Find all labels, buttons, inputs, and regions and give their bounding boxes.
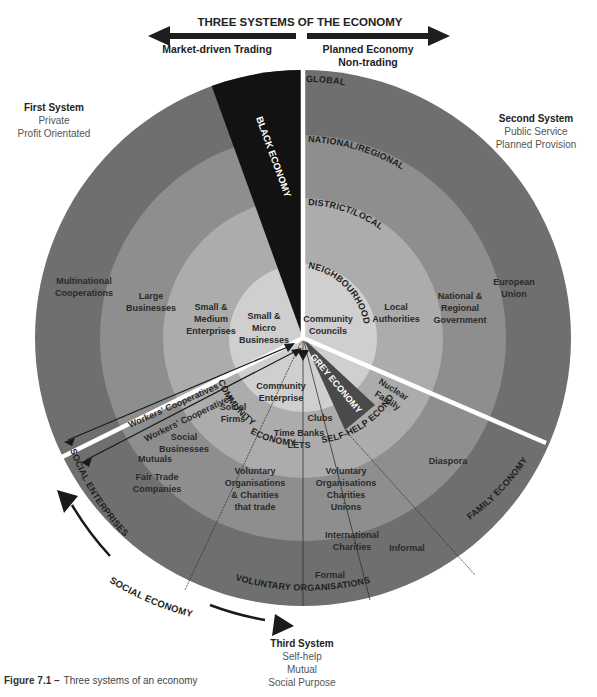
svg-text:Firms: Firms	[221, 414, 246, 424]
svg-text:Cooperations: Cooperations	[55, 288, 113, 298]
svg-text:Large: Large	[139, 291, 164, 301]
svg-text:Organisations: Organisations	[225, 478, 286, 488]
svg-text:Planned Provision: Planned Provision	[496, 139, 577, 150]
svg-text:Small &: Small &	[194, 302, 228, 312]
right-arrowhead-icon	[428, 26, 450, 46]
svg-text:Authorities: Authorities	[372, 314, 420, 324]
second-system-label: Second System Public Service Planned Pro…	[496, 113, 577, 150]
svg-text:Social: Social	[171, 432, 198, 442]
arrowhead-right-icon	[272, 614, 294, 636]
svg-text:Public Service: Public Service	[504, 126, 568, 137]
svg-text:Enterprises: Enterprises	[186, 326, 236, 336]
svg-text:Charities: Charities	[327, 490, 366, 500]
svg-text:Second System: Second System	[499, 113, 574, 124]
svg-text:& Charities: & Charities	[231, 490, 279, 500]
third-system-label: Third System Self-help Mutual Social Pur…	[268, 638, 336, 688]
svg-text:that trade: that trade	[234, 502, 275, 512]
svg-text:Diaspora: Diaspora	[429, 456, 469, 466]
svg-text:First System: First System	[24, 102, 84, 113]
svg-text:Businesses: Businesses	[159, 444, 209, 454]
svg-text:Union: Union	[501, 289, 527, 299]
svg-text:Mutual: Mutual	[287, 664, 317, 675]
svg-text:Unions: Unions	[331, 502, 362, 512]
svg-text:Private: Private	[38, 115, 70, 126]
svg-text:National &: National &	[438, 291, 483, 301]
svg-text:Businesses: Businesses	[239, 335, 289, 345]
svg-text:Businesses: Businesses	[126, 303, 176, 313]
svg-text:Informal: Informal	[389, 543, 425, 553]
svg-text:Self-help: Self-help	[282, 651, 322, 662]
svg-text:Enterprise: Enterprise	[259, 393, 304, 403]
header-title: THREE SYSTEMS OF THE ECONOMY	[197, 16, 402, 28]
header-right-label-1: Planned Economy	[322, 43, 413, 55]
svg-text:Companies: Companies	[133, 484, 182, 494]
svg-text:Time Banks: Time Banks	[274, 428, 324, 438]
header-right-label-2: Non-trading	[338, 56, 398, 68]
figure-caption: Figure 7.1 –Three systems of an economy	[4, 675, 198, 686]
svg-text:LETS: LETS	[287, 440, 310, 450]
svg-text:Micro: Micro	[252, 323, 277, 333]
svg-text:Regional: Regional	[441, 303, 479, 313]
header-left-label: Market-driven Trading	[162, 43, 272, 55]
svg-text:Social Purpose: Social Purpose	[268, 677, 336, 688]
svg-text:Mutuals: Mutuals	[138, 454, 172, 464]
svg-text:Voluntary: Voluntary	[235, 466, 276, 476]
svg-text:Fair Trade: Fair Trade	[135, 472, 178, 482]
svg-text:Councils: Councils	[309, 326, 347, 336]
svg-text:Community: Community	[256, 381, 306, 391]
svg-text:Local: Local	[384, 302, 408, 312]
svg-text:Profit Orientated: Profit Orientated	[18, 128, 91, 139]
three-systems-diagram: THREE SYSTEMS OF THE ECONOMY Market-driv…	[0, 0, 597, 697]
svg-text:Government: Government	[433, 315, 486, 325]
svg-text:Formal: Formal	[315, 570, 345, 580]
svg-text:International: International	[325, 530, 379, 540]
svg-text:Multinational: Multinational	[56, 276, 112, 286]
svg-text:Small &: Small &	[247, 311, 281, 321]
svg-text:Community: Community	[303, 314, 353, 324]
svg-text:Social: Social	[220, 402, 247, 412]
svg-text:Clubs: Clubs	[307, 413, 332, 423]
svg-text:European: European	[493, 277, 535, 287]
svg-text:Third System: Third System	[270, 638, 333, 649]
svg-text:Organisations: Organisations	[316, 478, 377, 488]
first-system-label: First System Private Profit Orientated	[18, 102, 91, 139]
social-economy-label: SOCIAL ECONOMY	[108, 574, 195, 619]
svg-text:Medium: Medium	[194, 314, 228, 324]
svg-text:Charities: Charities	[333, 542, 372, 552]
svg-text:Voluntary: Voluntary	[326, 466, 367, 476]
